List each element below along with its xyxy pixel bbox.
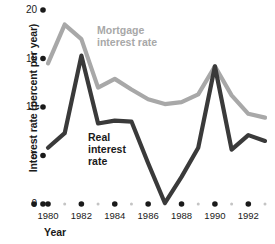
series-annotation-mortgage-interest-rate: Mortgage interest rate: [97, 24, 157, 48]
x-tick-dot: [145, 201, 151, 207]
x-tick-dot: [112, 201, 118, 207]
x-minor-tick-dot: [197, 203, 200, 206]
y-tick-label: 0: [19, 198, 37, 209]
x-tick-dot: [246, 201, 252, 207]
x-tick-label: 1980: [33, 210, 63, 221]
x-tick-label: 1988: [167, 210, 197, 221]
y-tick-label: 20: [19, 4, 37, 15]
x-axis-title: Year: [44, 226, 66, 238]
y-tick-dot: [40, 201, 46, 207]
x-tick-label: 1984: [100, 210, 130, 221]
y-tick-label: 10: [19, 101, 37, 112]
x-tick-label: 1982: [66, 210, 96, 221]
x-minor-tick-dot: [230, 203, 233, 206]
interest-rate-line-chart: Interest rate (percent per year) Year 05…: [0, 0, 275, 244]
y-tick-dot: [40, 153, 46, 159]
x-tick-dot: [79, 201, 85, 207]
y-tick-dot: [40, 7, 46, 13]
x-minor-tick-dot: [130, 203, 133, 206]
series-line-real-interest-rate: [48, 56, 265, 203]
x-tick-dot: [212, 201, 218, 207]
x-tick-label: 1990: [200, 210, 230, 221]
x-minor-tick-dot: [63, 203, 66, 206]
y-tick-label: 15: [19, 53, 37, 64]
x-minor-tick-dot: [97, 203, 100, 206]
y-tick-dot: [40, 104, 46, 110]
x-minor-tick-dot: [264, 203, 267, 206]
x-tick-dot: [45, 201, 51, 207]
x-axis-tick-dots: [31, 201, 266, 207]
y-tick-label: 5: [19, 150, 37, 161]
y-axis-title: Interest rate (percent per year): [27, 3, 39, 193]
series-annotation-real-interest-rate: Real interest rate: [88, 131, 126, 167]
y-tick-dot: [40, 56, 46, 62]
x-tick-label: 1986: [133, 210, 163, 221]
x-tick-label: 1992: [233, 210, 263, 221]
y-axis-tick-dots: [40, 7, 46, 207]
x-tick-dot: [179, 201, 185, 207]
